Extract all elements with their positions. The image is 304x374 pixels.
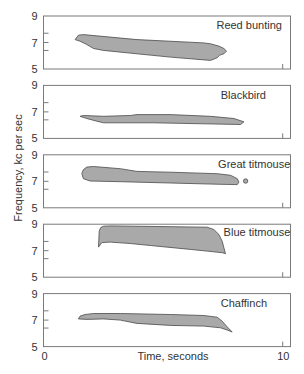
y-tick-label: 7 [31, 175, 37, 187]
y-tick-label: 7 [31, 314, 37, 326]
y-tick-label: 5 [31, 271, 37, 283]
spectrogram-panels: 975Reed bunting975Blackbird975Great titm… [31, 10, 290, 353]
x-tick-label-0: 0 [41, 350, 47, 362]
y-tick-label: 7 [31, 106, 37, 118]
y-tick-label: 7 [31, 245, 37, 257]
x-axis-title: Time, seconds [137, 350, 209, 362]
spectrogram-panel: 975Chaffinch [31, 288, 290, 353]
panel-bird-label: Blue titmouse [224, 226, 291, 238]
bird-song-spectrogram-figure: 975Reed bunting975Blackbird975Great titm… [0, 0, 304, 374]
song-trace-shape [82, 167, 239, 185]
panel-bird-label: Reed bunting [216, 19, 281, 31]
y-tick-label: 5 [31, 341, 37, 353]
spectrogram-panel: 975Blue titmouse [31, 218, 290, 283]
spectrogram-panel: 975Reed bunting [31, 10, 290, 75]
y-tick-label: 7 [31, 37, 37, 49]
song-trace-shape [80, 115, 244, 125]
y-tick-label: 9 [31, 10, 37, 22]
y-axis-title: Frequency, kc per sec [12, 114, 24, 222]
spectrogram-panel: 975Blackbird [31, 79, 290, 144]
x-tick-label-10: 10 [277, 350, 289, 362]
y-tick-label: 9 [31, 288, 37, 300]
panel-bird-label: Great titmouse [218, 158, 290, 170]
panel-bird-label: Blackbird [221, 89, 266, 101]
song-trace-shape [75, 35, 226, 61]
panel-bird-label: Chaffinch [221, 297, 267, 309]
song-trace-dot [243, 179, 247, 183]
y-tick-label: 9 [31, 218, 37, 230]
song-trace-shape [99, 226, 226, 254]
y-tick-label: 5 [31, 63, 37, 75]
song-trace-shape [78, 314, 232, 333]
spectrogram-panel: 975Great titmouse [31, 149, 290, 214]
y-tick-label: 5 [31, 202, 37, 214]
y-tick-label: 9 [31, 149, 37, 161]
y-tick-label: 5 [31, 132, 37, 144]
y-tick-label: 9 [31, 79, 37, 91]
